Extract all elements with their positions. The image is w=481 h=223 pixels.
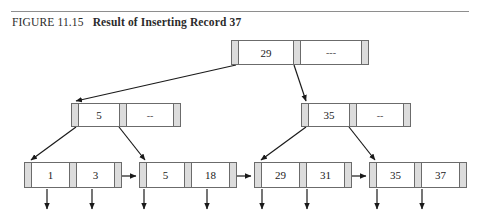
leaf-4-pointer-cell-2[interactable]: [459, 162, 467, 188]
leaf-3-pointer-cell-0[interactable]: [254, 162, 262, 188]
leaf-1-record-1: 3: [77, 162, 114, 188]
edge-right-internal-to-leaf3: [261, 127, 306, 160]
leaf-node-4[interactable]: 35 37: [369, 162, 467, 188]
internal-right-pointer-cell-0[interactable]: [301, 103, 309, 127]
leaf-3-pointer-cell-1[interactable]: [299, 162, 307, 188]
internal-node-left[interactable]: 5 --: [71, 103, 181, 127]
leaf-1-pointer-cell-0[interactable]: [24, 162, 32, 188]
edge-right-internal-to-leaf4: [349, 127, 375, 160]
internal-right-key-0: 35: [309, 103, 349, 127]
leaf-node-3[interactable]: 29 31: [254, 162, 352, 188]
edge-root-to-right-internal: [294, 65, 306, 101]
leaf-2-pointer-cell-0[interactable]: [139, 162, 147, 188]
leaf-4-pointer-cell-0[interactable]: [369, 162, 377, 188]
leaf-3-record-0: 29: [262, 162, 299, 188]
edge-left-internal-to-leaf2: [119, 127, 145, 160]
root-pointer-cell-1[interactable]: [293, 40, 301, 65]
internal-node-right[interactable]: 35 --: [301, 103, 411, 127]
internal-left-key-1: --: [127, 103, 173, 127]
root-pointer-cell-2[interactable]: [361, 40, 369, 65]
leaf-4-record-0: 35: [377, 162, 414, 188]
internal-left-pointer-cell-0[interactable]: [71, 103, 79, 127]
leaf-2-record-0: 5: [147, 162, 184, 188]
caption-rule: [11, 11, 469, 12]
figure-number: FIGURE 11.15: [12, 16, 84, 28]
internal-right-pointer-cell-2[interactable]: [403, 103, 411, 127]
figure-caption: FIGURE 11.15Result of Inserting Record 3…: [12, 16, 241, 28]
root-key-0: 29: [239, 40, 293, 65]
leaf-2-record-1: 18: [192, 162, 229, 188]
leaf-2-pointer-cell-1[interactable]: [184, 162, 192, 188]
leaf-3-pointer-cell-2[interactable]: [344, 162, 352, 188]
internal-left-pointer-cell-2[interactable]: [173, 103, 181, 127]
edge-root-to-left-internal: [76, 65, 236, 101]
leaf-1-record-0: 1: [32, 162, 69, 188]
edge-left-internal-to-leaf1: [31, 127, 76, 160]
root-key-1: ---: [301, 40, 361, 65]
leaf-1-pointer-cell-2[interactable]: [114, 162, 122, 188]
leaf-3-record-1: 31: [307, 162, 344, 188]
leaf-2-pointer-cell-2[interactable]: [229, 162, 237, 188]
leaf-1-pointer-cell-1[interactable]: [69, 162, 77, 188]
leaf-node-1[interactable]: 1 3: [24, 162, 122, 188]
root-pointer-cell-0[interactable]: [231, 40, 239, 65]
leaf-node-2[interactable]: 5 18: [139, 162, 237, 188]
internal-left-pointer-cell-1[interactable]: [119, 103, 127, 127]
internal-right-key-1: --: [357, 103, 403, 127]
leaf-4-record-1: 37: [422, 162, 459, 188]
leaf-4-pointer-cell-1[interactable]: [414, 162, 422, 188]
figure-container: FIGURE 11.15Result of Inserting Record 3…: [0, 0, 481, 223]
internal-right-pointer-cell-1[interactable]: [349, 103, 357, 127]
internal-left-key-0: 5: [79, 103, 119, 127]
root-node[interactable]: 29 ---: [231, 40, 369, 65]
figure-title: Result of Inserting Record 37: [93, 16, 242, 28]
